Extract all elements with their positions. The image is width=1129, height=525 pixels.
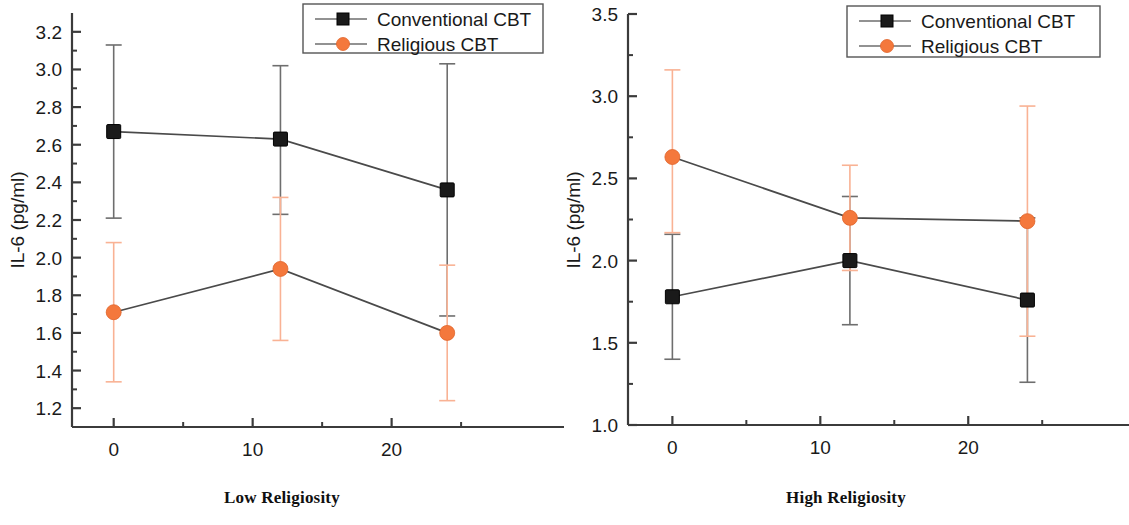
data-point-marker-circle[interactable] <box>273 261 288 276</box>
data-point-marker-square[interactable] <box>1020 293 1034 307</box>
legend-marker-circle <box>881 40 894 53</box>
x-tick-label: 0 <box>108 439 119 460</box>
y-tick-label: 3.5 <box>592 4 618 25</box>
axes <box>628 14 1129 425</box>
legend-label: Religious CBT <box>921 36 1043 57</box>
series-error-bars <box>106 197 456 400</box>
legend: Conventional CBTReligious CBT <box>847 6 1100 57</box>
y-tick-label: 3.0 <box>592 86 618 107</box>
panel-low-religiosity: 1.21.41.61.82.02.22.42.62.83.03.201020IL… <box>0 0 564 525</box>
y-tick-label: 3.2 <box>36 22 62 43</box>
data-point-marker-square[interactable] <box>107 125 121 139</box>
x-tick-group: 01020 <box>108 418 461 460</box>
panel-caption-low: Low Religiosity <box>0 488 564 508</box>
legend-label: Conventional CBT <box>377 9 532 30</box>
axes <box>72 13 564 427</box>
legend-marker-circle <box>337 38 350 51</box>
x-tick-label: 20 <box>958 437 979 458</box>
data-point-marker-circle[interactable] <box>665 150 680 165</box>
panel-caption-high: High Religiosity <box>564 488 1128 508</box>
y-tick-label: 1.0 <box>592 415 618 436</box>
y-tick-label: 2.2 <box>36 210 62 231</box>
legend-label: Religious CBT <box>377 34 499 55</box>
data-point-marker-square[interactable] <box>273 132 287 146</box>
panel-high-religiosity: 1.01.52.02.53.03.501020IL-6 (pg/ml)WeekC… <box>564 0 1128 525</box>
y-tick-label: 2.5 <box>592 168 618 189</box>
data-point-marker-square[interactable] <box>665 290 679 304</box>
y-tick-label: 1.8 <box>36 285 62 306</box>
legend: Conventional CBTReligious CBT <box>303 4 543 55</box>
y-tick-label: 2.0 <box>592 251 618 272</box>
data-point-marker-square[interactable] <box>843 254 857 268</box>
y-tick-label: 2.0 <box>36 248 62 269</box>
y-axis-title: IL-6 (pg/ml) <box>564 171 584 268</box>
data-point-marker-circle[interactable] <box>106 305 121 320</box>
legend-label: Conventional CBT <box>921 11 1076 32</box>
x-tick-label: 0 <box>667 437 678 458</box>
legend-marker-square <box>337 13 349 25</box>
y-tick-label: 1.2 <box>36 398 62 419</box>
y-tick-label: 2.4 <box>36 172 63 193</box>
x-tick-label: 10 <box>810 437 831 458</box>
figure-container: 1.21.41.61.82.02.22.42.62.83.03.201020IL… <box>0 0 1129 525</box>
data-point-marker-circle[interactable] <box>842 210 857 225</box>
x-tick-label: 10 <box>242 439 263 460</box>
data-point-marker-square[interactable] <box>440 183 454 197</box>
y-axis-title: IL-6 (pg/ml) <box>7 171 28 268</box>
plot-low-religiosity: 1.21.41.61.82.02.22.42.62.83.03.201020IL… <box>0 0 564 460</box>
y-tick-label: 3.0 <box>36 59 62 80</box>
y-tick-label: 1.6 <box>36 323 62 344</box>
y-tick-group: 1.21.41.61.82.02.22.42.62.83.03.2 <box>36 22 81 419</box>
y-tick-label: 2.8 <box>36 97 62 118</box>
x-tick-label: 20 <box>381 439 402 460</box>
plot-high-religiosity: 1.01.52.02.53.03.501020IL-6 (pg/ml)WeekC… <box>564 0 1129 460</box>
x-tick-group: 01020 <box>667 416 1042 458</box>
y-tick-label: 2.6 <box>36 135 62 156</box>
data-point-marker-circle[interactable] <box>1020 214 1035 229</box>
legend-marker-square <box>881 15 893 27</box>
y-tick-label: 1.4 <box>36 361 63 382</box>
y-tick-label: 1.5 <box>592 333 618 354</box>
data-point-marker-circle[interactable] <box>440 325 455 340</box>
